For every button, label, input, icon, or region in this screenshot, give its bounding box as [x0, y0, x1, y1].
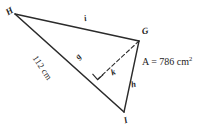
triangle-drawing: [0, 0, 206, 134]
geometry-figure: H G I i g h k 112 cm A = 786 cm2: [0, 0, 206, 134]
area-annotation: A = 786 cm2: [142, 57, 192, 67]
right-angle-marker: [93, 74, 104, 80]
area-text: A = 786 cm: [142, 56, 189, 67]
vertex-label-g: G: [141, 26, 149, 36]
area-exponent: 2: [189, 55, 192, 62]
side-i-line: [15, 14, 139, 41]
side-h-line: [124, 41, 139, 112]
side-g-line: [15, 14, 124, 112]
